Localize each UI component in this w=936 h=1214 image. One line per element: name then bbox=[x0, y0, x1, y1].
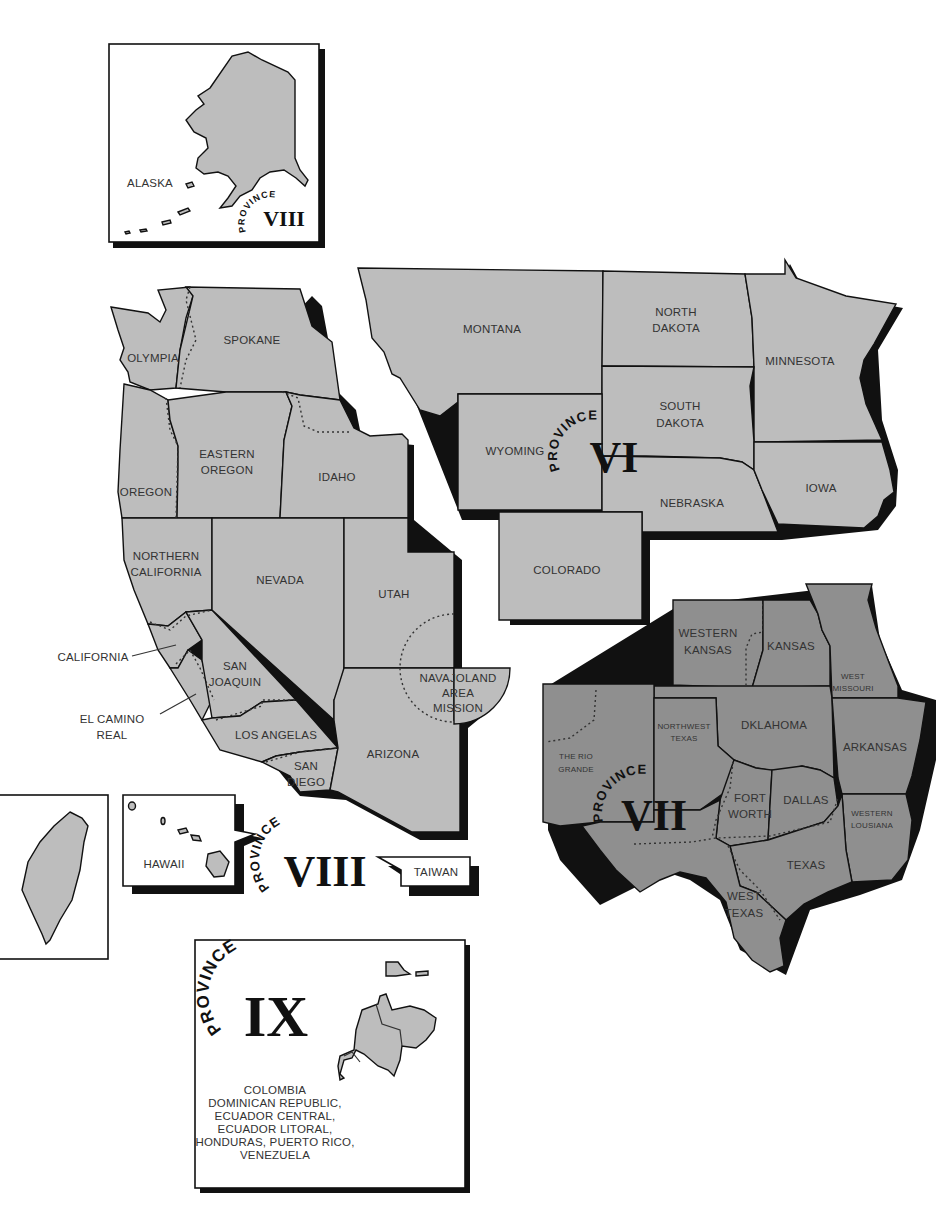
region-idaho bbox=[280, 392, 408, 518]
ix-diocese-line-4: ECUADOR LITORAL, bbox=[218, 1123, 333, 1135]
label-west-texas-1: WEST bbox=[727, 890, 761, 902]
label-colorado: COLORADO bbox=[533, 564, 600, 576]
label-northwest-texas-1: NORTHWEST bbox=[657, 722, 710, 731]
ix-diocese-line-5: HONDURAS, PUERTO RICO, bbox=[195, 1136, 354, 1148]
label-idaho: IDAHO bbox=[318, 471, 355, 483]
ix-diocese-line-2: DOMINICAN REPUBLIC, bbox=[208, 1097, 342, 1109]
label-alaska: ALASKA bbox=[127, 177, 173, 189]
label-los-angeles: LOS ANGELAS bbox=[235, 729, 317, 741]
label-minnesota: MINNESOTA bbox=[765, 355, 834, 367]
label-san-diego-1: SAN bbox=[294, 760, 318, 772]
taiwan-inset bbox=[0, 795, 108, 959]
label-hawaii: HAWAII bbox=[143, 858, 184, 870]
taiwan-callout: TAIWAN bbox=[378, 857, 479, 896]
label-northern-california-2: CALIFORNIA bbox=[130, 566, 201, 578]
province-ix-inset: PROVINCE IX COLOMBIA DOMINICAN REPUBLIC,… bbox=[193, 935, 470, 1193]
label-north-dakota-1: NORTH bbox=[655, 306, 697, 318]
ix-diocese-line-1: COLOMBIA bbox=[244, 1084, 306, 1096]
label-arkansas: ARKANSAS bbox=[843, 741, 907, 753]
label-north-dakota-2: DAKOTA bbox=[652, 322, 700, 334]
label-utah: UTAH bbox=[378, 588, 409, 600]
label-taiwan: TAIWAN bbox=[414, 866, 459, 878]
label-west-missouri-2: MISSOURI bbox=[832, 684, 873, 693]
label-fort-worth-2: WORTH bbox=[728, 808, 772, 820]
alaska-inset: ALASKA PROVINCE VIII bbox=[109, 44, 325, 248]
province-vii: WESTERN KANSAS KANSAS WEST MISSOURI DKLA… bbox=[543, 584, 936, 975]
label-northwest-texas-2: TEXAS bbox=[670, 734, 697, 743]
label-san-diego-2: DIEGO bbox=[287, 776, 325, 788]
label-el-camino-real-1: EL CAMINO bbox=[80, 713, 145, 725]
label-south-dakota-2: DAKOTA bbox=[656, 417, 704, 429]
label-south-dakota-1: SOUTH bbox=[659, 400, 700, 412]
label-navajoland-3: MISSION bbox=[433, 702, 483, 714]
province-numeral-vi: VI bbox=[590, 433, 639, 482]
label-san-joaquin-1: SAN bbox=[223, 660, 247, 672]
label-rio-grande-1: THE RIO bbox=[559, 752, 593, 761]
region-western-louisiana bbox=[842, 794, 912, 882]
label-nebraska: NEBRASKA bbox=[660, 497, 724, 509]
province-numeral-vii: VII bbox=[621, 791, 687, 840]
label-nevada: NEVADA bbox=[256, 574, 304, 586]
label-arizona: ARIZONA bbox=[367, 748, 420, 760]
region-north-dakota bbox=[602, 271, 754, 367]
label-texas: TEXAS bbox=[787, 859, 826, 871]
label-montana: MONTANA bbox=[463, 323, 521, 335]
province-numeral-ix: IX bbox=[244, 984, 309, 1049]
label-oregon: OREGON bbox=[120, 486, 172, 498]
province-viii-legend: PROVINCE VIII bbox=[247, 813, 367, 896]
label-san-joaquin-2: JOAQUIN bbox=[209, 676, 262, 688]
province-map: ALASKA PROVINCE VIII bbox=[0, 0, 936, 1214]
ix-diocese-line-3: ECUADOR CENTRAL, bbox=[215, 1110, 336, 1122]
label-eastern-oregon-2: OREGON bbox=[201, 464, 253, 476]
label-rio-grande-2: GRANDE bbox=[558, 765, 593, 774]
label-northern-california-1: NORTHERN bbox=[133, 550, 200, 562]
label-spokane: SPOKANE bbox=[223, 334, 280, 346]
label-kansas: KANSAS bbox=[767, 640, 815, 652]
label-dallas: DALLAS bbox=[783, 794, 828, 806]
label-iowa: IOWA bbox=[805, 482, 836, 494]
province-numeral-viii: VIII bbox=[283, 847, 366, 896]
label-western-louisiana-1: WESTERN bbox=[851, 809, 892, 818]
hawaii-inset: HAWAII bbox=[123, 795, 262, 894]
label-navajoland-2: AREA bbox=[442, 687, 474, 699]
label-western-kansas-1: WESTERN bbox=[679, 627, 738, 639]
label-western-kansas-2: KANSAS bbox=[684, 644, 732, 656]
label-olympia: OLYMPIA bbox=[127, 352, 179, 364]
label-western-louisiana-2: LOUSIANA bbox=[851, 821, 894, 830]
label-eastern-oregon-1: EASTERN bbox=[199, 448, 255, 460]
svg-text:PROVINCE: PROVINCE bbox=[247, 813, 283, 895]
label-wyoming: WYOMING bbox=[486, 445, 545, 457]
ix-diocese-line-6: VENEZUELA bbox=[240, 1149, 310, 1161]
label-fort-worth-1: FORT bbox=[734, 792, 766, 804]
label-el-camino-real-2: REAL bbox=[97, 729, 128, 741]
label-west-missouri-1: WEST bbox=[841, 672, 865, 681]
label-west-texas-2: TEXAS bbox=[725, 907, 764, 919]
label-oklahoma: DKLAHOMA bbox=[741, 719, 807, 731]
province-numeral-alaska: VIII bbox=[263, 206, 305, 231]
label-navajoland-1: NAVAJOLAND bbox=[420, 672, 497, 684]
province-word-viii: PROVINCE bbox=[247, 813, 283, 895]
label-california-callout: CALIFORNIA bbox=[57, 651, 128, 663]
